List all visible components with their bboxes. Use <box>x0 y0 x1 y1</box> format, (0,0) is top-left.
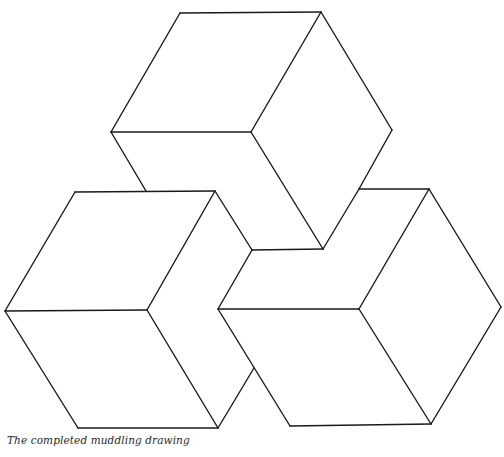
muddling-drawing <box>0 0 504 457</box>
right-cube-lower-left-edge <box>218 309 290 426</box>
figure-caption: The completed muddling drawing <box>7 434 190 446</box>
top-cube-lower-right-edge <box>359 130 392 189</box>
right-cube-bottom-edge <box>290 424 431 426</box>
left-cube-lower-left-edge <box>5 311 78 428</box>
top-cube <box>111 12 392 249</box>
left-cube-middle-edge <box>5 310 147 311</box>
top-cube-front-vertical <box>251 132 323 249</box>
right-cube-upper-left-edge <box>218 250 252 309</box>
right-cube-upper-right-edge <box>429 189 501 307</box>
right-cube-inner-diagonal <box>359 189 429 309</box>
top-cube-top-edge <box>180 12 321 13</box>
left-cube-inner-diagonal <box>147 191 215 310</box>
left-cube-upper-right-edge <box>215 191 252 250</box>
left-cube-top-edge <box>75 191 215 192</box>
left-cube <box>5 191 254 428</box>
top-cube-upper-right-edge <box>321 12 392 130</box>
left-cube-front-vertical <box>147 310 218 428</box>
top-cube-inner-diagonal <box>251 12 321 132</box>
left-cube-lower-right-edge <box>218 368 254 428</box>
left-cube-upper-left-edge <box>5 192 75 311</box>
top-cube-lower-left-edge <box>111 132 146 191</box>
right-cube-notch-left <box>323 189 359 249</box>
right-cube-notch-edge <box>252 249 323 250</box>
right-cube-lower-right-edge <box>431 307 501 424</box>
right-cube-front-vertical <box>359 309 431 424</box>
right-cube <box>218 189 501 426</box>
top-cube-upper-left-edge <box>111 13 180 132</box>
